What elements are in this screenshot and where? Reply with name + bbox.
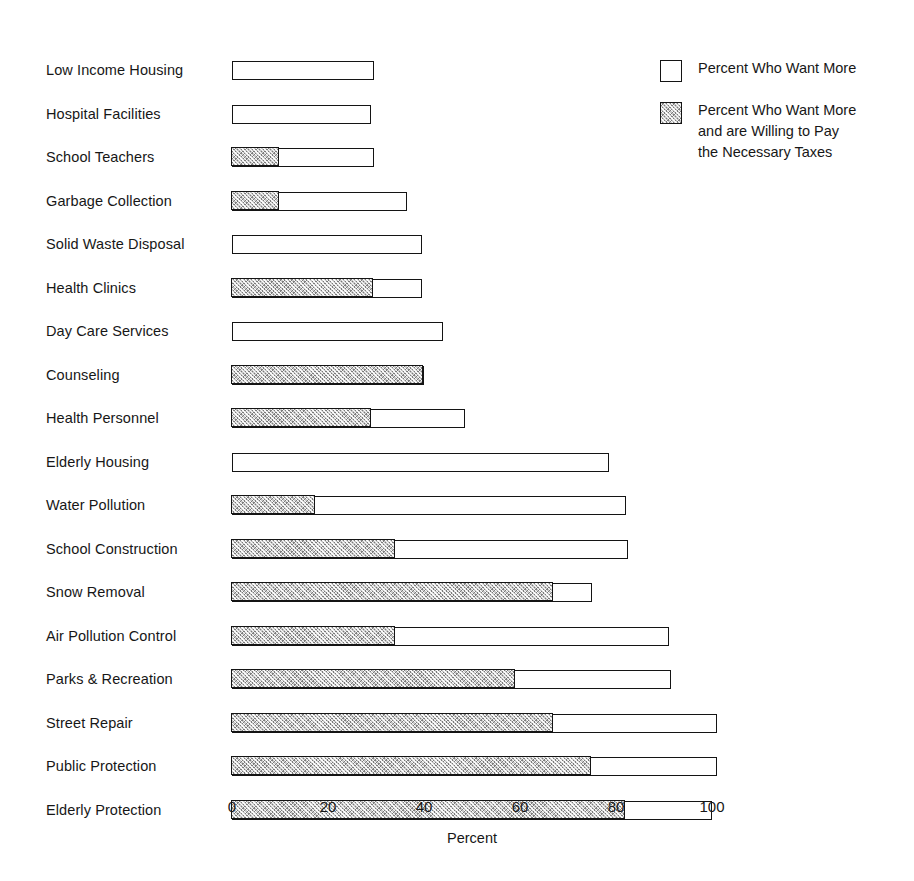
bar-total <box>232 453 609 472</box>
legend-item-want-more: Percent Who Want More <box>660 58 910 84</box>
x-axis-tick-40: 40 <box>394 798 454 816</box>
x-axis-tick-0: 0 <box>202 798 262 816</box>
bar-total <box>232 61 374 80</box>
bar-segment-willing-to-pay <box>231 365 423 384</box>
bar-total <box>232 714 717 733</box>
bar-category-label: Parks & Recreation <box>46 666 226 692</box>
bar-total <box>232 148 374 167</box>
bar-category-label: Counseling <box>46 362 226 388</box>
bar-total <box>232 105 371 124</box>
bar-total <box>232 540 628 559</box>
x-axis-tick-20: 20 <box>298 798 358 816</box>
bar-segment-willing-to-pay <box>231 495 315 514</box>
bar-row: Parks & Recreation <box>0 666 914 692</box>
bar-category-label: Water Pollution <box>46 492 226 518</box>
bar-row: Counseling <box>0 362 914 388</box>
bar-total <box>232 409 465 428</box>
legend-swatch-open-icon <box>660 60 682 82</box>
chart-legend: Percent Who Want More Percent Who Want M… <box>660 58 910 179</box>
bar-segment-willing-to-pay <box>231 626 394 645</box>
bar-segment-willing-to-pay <box>231 669 514 688</box>
bar-row: School Construction <box>0 536 914 562</box>
bar-category-label: Solid Waste Disposal <box>46 231 226 257</box>
x-axis-tick-80: 80 <box>586 798 646 816</box>
bar-total <box>232 583 592 602</box>
x-axis-tick-60: 60 <box>490 798 550 816</box>
bar-category-label: Health Clinics <box>46 275 226 301</box>
bar-row: Garbage Collection <box>0 188 914 214</box>
bar-category-label: Street Repair <box>46 710 226 736</box>
bar-total <box>232 366 424 385</box>
bar-total <box>232 192 407 211</box>
bar-total <box>232 627 669 646</box>
bar-row: Elderly Housing <box>0 449 914 475</box>
bar-category-label: School Construction <box>46 536 226 562</box>
bar-row: Health Clinics <box>0 275 914 301</box>
bar-segment-willing-to-pay <box>231 582 553 601</box>
bar-row: Health Personnel <box>0 405 914 431</box>
bar-total <box>232 496 626 515</box>
bar-total <box>232 322 443 341</box>
x-axis-tick-100: 100 <box>682 798 742 816</box>
bar-segment-willing-to-pay <box>231 278 373 297</box>
bar-segment-willing-to-pay <box>231 713 553 732</box>
bar-segment-willing-to-pay <box>231 408 370 427</box>
bar-category-label: Garbage Collection <box>46 188 226 214</box>
bar-segment-willing-to-pay <box>231 147 279 166</box>
bar-row: Air Pollution Control <box>0 623 914 649</box>
bar-segment-willing-to-pay <box>231 756 591 775</box>
bar-segment-willing-to-pay <box>231 191 279 210</box>
bar-category-label: Low Income Housing <box>46 57 226 83</box>
bar-total <box>232 235 422 254</box>
bar-row: Public Protection <box>0 753 914 779</box>
bar-row: Snow Removal <box>0 579 914 605</box>
bar-category-label: Elderly Protection <box>46 797 226 823</box>
bar-category-label: Hospital Facilities <box>46 101 226 127</box>
legend-label-willing-to-pay: Percent Who Want More and are Willing to… <box>698 100 910 163</box>
x-axis-title: Percent <box>232 830 712 846</box>
bar-category-label: Day Care Services <box>46 318 226 344</box>
bar-chart-figure: Low Income HousingHospital FacilitiesSch… <box>0 0 914 881</box>
bar-row: Water Pollution <box>0 492 914 518</box>
bar-row: Solid Waste Disposal <box>0 231 914 257</box>
bar-category-label: School Teachers <box>46 144 226 170</box>
bar-total <box>232 279 422 298</box>
bar-row: Street Repair <box>0 710 914 736</box>
legend-swatch-hatched-icon <box>660 102 682 124</box>
bar-row: Elderly Protection <box>0 797 914 823</box>
bar-total <box>232 757 717 776</box>
bar-segment-willing-to-pay <box>231 539 394 558</box>
bar-category-label: Public Protection <box>46 753 226 779</box>
bar-category-label: Air Pollution Control <box>46 623 226 649</box>
bar-total <box>232 670 671 689</box>
legend-item-willing-to-pay: Percent Who Want More and are Willing to… <box>660 100 910 163</box>
bar-category-label: Snow Removal <box>46 579 226 605</box>
legend-label-want-more: Percent Who Want More <box>698 58 910 79</box>
bar-category-label: Elderly Housing <box>46 449 226 475</box>
bar-category-label: Health Personnel <box>46 405 226 431</box>
bar-row: Day Care Services <box>0 318 914 344</box>
